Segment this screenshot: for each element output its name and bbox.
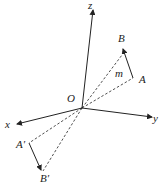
- label-A: A: [138, 73, 146, 85]
- label-y: y: [152, 112, 158, 124]
- dashed-line-OB: [82, 55, 122, 108]
- label-B-prime: B′: [40, 172, 50, 184]
- dashed-line-OA: [82, 78, 133, 108]
- label-A-prime: A′: [15, 138, 26, 150]
- y-axis: [82, 108, 152, 117]
- dashed-line-OB-prime: [43, 108, 82, 171]
- dashed-line-OA-prime: [29, 108, 82, 143]
- label-z: z: [87, 0, 93, 11]
- x-axis: [17, 108, 82, 124]
- label-x: x: [4, 118, 10, 130]
- z-axis: [82, 10, 93, 108]
- vector-AB: [123, 49, 133, 78]
- coordinate-diagram: z B m A O y x A′ B′: [0, 0, 162, 194]
- label-O: O: [67, 92, 75, 104]
- vector-A-prime-B-prime: [29, 143, 41, 170]
- label-m: m: [115, 67, 123, 79]
- label-B: B: [118, 32, 125, 44]
